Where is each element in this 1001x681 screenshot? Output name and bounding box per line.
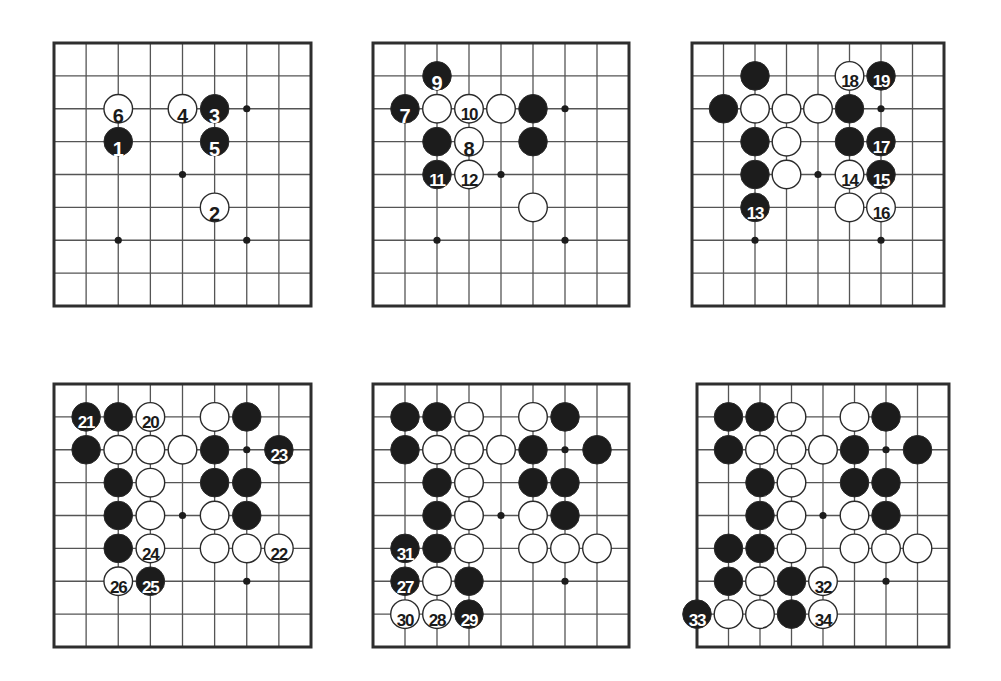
white-stone-icon <box>840 501 869 530</box>
black-stone <box>777 600 806 629</box>
black-stone <box>391 403 420 432</box>
move-number: 27 <box>397 578 414 597</box>
white-stone <box>746 600 775 629</box>
black-stone <box>709 94 738 123</box>
white-stone <box>772 127 801 156</box>
white-stone <box>741 94 770 123</box>
black-stone-icon <box>104 468 133 497</box>
black-stone-17: 17 <box>867 127 896 157</box>
board-grid: 21202324222625 <box>54 384 311 647</box>
black-stone-15: 15 <box>867 160 896 190</box>
black-stone-icon <box>872 403 901 432</box>
black-stone <box>455 567 484 596</box>
black-stone <box>200 468 229 497</box>
black-stone-19: 19 <box>867 62 896 92</box>
white-stone-icon <box>777 435 806 464</box>
white-stone <box>168 435 197 464</box>
black-stone <box>872 403 901 432</box>
black-stone <box>840 435 869 464</box>
star-point-icon <box>243 446 250 453</box>
move-number: 19 <box>873 72 890 91</box>
white-stone-18: 18 <box>835 62 864 92</box>
white-stone <box>423 435 452 464</box>
black-stone-icon <box>519 468 548 497</box>
white-stone-14: 14 <box>835 160 864 190</box>
white-stone <box>777 403 806 432</box>
black-stone-5: 5 <box>200 127 229 159</box>
white-stone-icon <box>200 403 229 432</box>
move-number: 23 <box>271 446 288 465</box>
white-stone-28: 28 <box>423 600 452 630</box>
move-number: 32 <box>815 578 832 597</box>
black-stone-icon <box>714 435 743 464</box>
black-stone-icon <box>423 501 452 530</box>
go-board-3: 18191714151316 <box>692 43 944 306</box>
black-stone <box>714 435 743 464</box>
star-point-icon <box>814 171 821 178</box>
black-stone <box>423 403 452 432</box>
black-stone <box>741 127 770 156</box>
black-stone-33: 33 <box>683 600 712 630</box>
black-stone-icon <box>746 501 775 530</box>
white-stone <box>455 435 484 464</box>
white-stone <box>487 435 516 464</box>
white-stone <box>872 534 901 563</box>
black-stone-icon <box>746 534 775 563</box>
black-stone-icon <box>741 62 770 91</box>
black-stone-11: 11 <box>423 160 452 190</box>
white-stone-icon <box>519 501 548 530</box>
black-stone <box>104 403 133 432</box>
star-point-icon <box>882 578 889 585</box>
black-stone-icon <box>741 127 770 156</box>
black-stone-icon <box>903 435 932 464</box>
white-stone <box>583 534 612 563</box>
white-stone-24: 24 <box>136 534 165 564</box>
black-stone-23: 23 <box>265 435 294 465</box>
black-stone-7: 7 <box>391 94 420 126</box>
black-stone <box>777 567 806 596</box>
white-stone-icon <box>741 94 770 123</box>
white-stone-icon <box>777 403 806 432</box>
white-stone-icon <box>772 94 801 123</box>
white-stone-icon <box>232 534 261 563</box>
white-stone-26: 26 <box>104 567 133 597</box>
white-stone-icon <box>746 600 775 629</box>
star-point-icon <box>433 237 440 244</box>
white-stone-icon <box>777 468 806 497</box>
white-stone-icon <box>772 160 801 189</box>
black-stone-icon <box>551 501 580 530</box>
black-stone-icon <box>104 534 133 563</box>
white-stone <box>104 435 133 464</box>
black-stone-icon <box>714 567 743 596</box>
black-stone-icon <box>777 600 806 629</box>
black-stone <box>835 127 864 156</box>
white-stone <box>714 600 743 629</box>
move-number: 6 <box>113 105 124 127</box>
white-stone <box>772 94 801 123</box>
star-point-icon <box>243 237 250 244</box>
black-stone-icon <box>872 468 901 497</box>
black-stone <box>741 62 770 91</box>
black-stone-3: 3 <box>200 94 229 126</box>
black-stone <box>423 468 452 497</box>
black-stone-21: 21 <box>72 403 101 433</box>
white-stone <box>840 403 869 432</box>
black-stone <box>72 435 101 464</box>
move-number: 10 <box>461 105 478 124</box>
white-stone-32: 32 <box>809 567 838 597</box>
black-stone <box>551 403 580 432</box>
white-stone-icon <box>583 534 612 563</box>
black-stone-29: 29 <box>455 600 484 630</box>
black-stone <box>519 435 548 464</box>
black-stone-icon <box>200 468 229 497</box>
move-number: 29 <box>461 611 478 630</box>
star-point-icon <box>877 105 884 112</box>
move-number: 17 <box>873 138 890 157</box>
black-stone-31: 31 <box>391 534 420 564</box>
white-stone <box>903 534 932 563</box>
black-stone <box>551 468 580 497</box>
black-stone-1: 1 <box>104 127 133 159</box>
move-number: 13 <box>747 204 764 223</box>
move-number: 34 <box>815 611 833 630</box>
white-stone <box>455 468 484 497</box>
